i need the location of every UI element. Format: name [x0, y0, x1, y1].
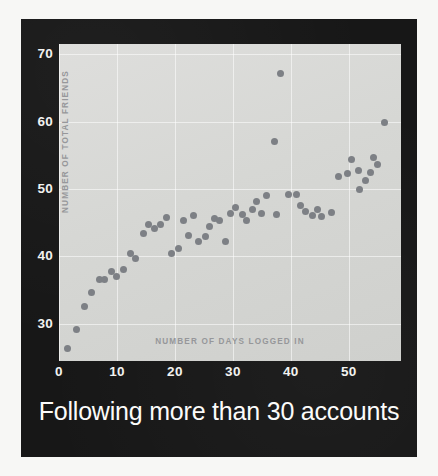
data-point: [151, 225, 158, 232]
data-point: [195, 238, 202, 245]
chart-caption: Following more than 30 accounts: [21, 397, 417, 426]
data-point: [222, 238, 229, 245]
x-axis-tick-label: 0: [39, 365, 79, 379]
y-axis-tick-label: 30: [21, 317, 53, 331]
data-point: [243, 217, 250, 224]
data-point: [81, 303, 88, 310]
data-point: [293, 191, 300, 198]
data-point: [381, 119, 388, 126]
data-point: [249, 206, 256, 213]
data-point: [263, 192, 270, 199]
data-point: [314, 206, 321, 213]
y-axis-title: NUMBER OF TOTAL FRIENDS: [61, 62, 70, 222]
data-point: [309, 212, 316, 219]
data-point: [227, 210, 234, 217]
data-point: [356, 186, 363, 193]
y-axis-tick-label: 70: [21, 47, 53, 61]
data-point: [273, 211, 280, 218]
data-point: [277, 70, 284, 77]
data-point: [328, 209, 335, 216]
x-axis-tick-label: 50: [329, 365, 369, 379]
y-axis-tick-label: 40: [21, 249, 53, 263]
x-axis-title: NUMBER OF DAYS LOGGED IN: [59, 337, 401, 346]
data-point: [302, 208, 309, 215]
data-point: [362, 177, 369, 184]
data-point: [157, 221, 164, 228]
data-point: [185, 232, 192, 239]
data-point: [132, 255, 139, 262]
data-point: [120, 266, 127, 273]
data-point: [216, 217, 223, 224]
data-point: [168, 250, 175, 257]
x-axis-tick-label: 10: [97, 365, 137, 379]
data-point: [202, 233, 209, 240]
data-point: [232, 204, 239, 211]
chart-panel: 3040506070 01020304050 NUMBER OF DAYS LO…: [21, 19, 417, 457]
data-point: [206, 223, 213, 230]
x-axis-tick-label: 20: [155, 365, 195, 379]
data-point: [271, 138, 278, 145]
plot-area: [59, 44, 401, 361]
scatter-points-layer: [59, 44, 401, 361]
data-point: [163, 214, 170, 221]
x-axis-tick-label: 40: [271, 365, 311, 379]
scatter-chart: 3040506070 01020304050 NUMBER OF DAYS LO…: [21, 19, 417, 457]
data-point: [318, 213, 325, 220]
data-point: [344, 170, 351, 177]
data-point: [140, 230, 147, 237]
data-point: [73, 326, 80, 333]
data-point: [180, 217, 187, 224]
data-point: [175, 245, 182, 252]
data-point: [348, 156, 355, 163]
data-point: [355, 167, 362, 174]
data-point: [285, 191, 292, 198]
data-point: [190, 212, 197, 219]
data-point: [258, 210, 265, 217]
y-axis-tick-label: 60: [21, 115, 53, 129]
y-axis-tick-label: 50: [21, 182, 53, 196]
data-point: [113, 273, 120, 280]
data-point: [88, 289, 95, 296]
data-point: [253, 198, 260, 205]
data-point: [367, 169, 374, 176]
data-point: [335, 173, 342, 180]
data-point: [374, 161, 381, 168]
figure-frame: 3040506070 01020304050 NUMBER OF DAYS LO…: [0, 0, 438, 476]
x-axis-tick-label: 30: [213, 365, 253, 379]
data-point: [101, 276, 108, 283]
